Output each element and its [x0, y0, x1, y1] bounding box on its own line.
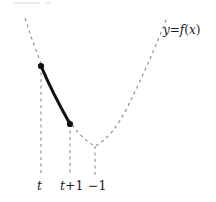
curve-label-y: y	[163, 23, 170, 37]
parabola-curve	[25, 18, 166, 146]
figure-container: y=f(x) t t+1 −1	[0, 0, 216, 202]
curve-label-x: x	[189, 23, 196, 37]
curve-label-equals: =	[170, 23, 180, 37]
x-axis-label-t-plus-1: t+1	[60, 180, 83, 193]
marked-point-right	[67, 121, 73, 127]
x-axis-label-t-plus-1-op: +1	[65, 178, 83, 193]
curve-label: y=f(x)	[163, 24, 200, 36]
secant-segment	[41, 66, 70, 124]
x-axis-label-t: t	[37, 180, 42, 193]
marked-point-left	[38, 63, 44, 69]
x-axis-label-minus-1: −1	[88, 180, 106, 193]
curve-label-close-paren: )	[196, 23, 201, 37]
